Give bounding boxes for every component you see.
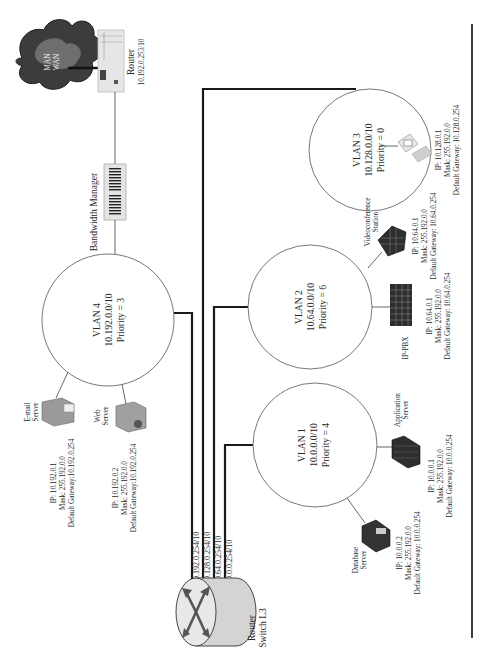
svg-text:Web: Web: [94, 409, 102, 422]
vlan4-email-link: [56, 372, 68, 398]
svg-text:Server: Server: [102, 406, 110, 425]
interface-label-vlan4: 10.192.0.254/10: [192, 532, 201, 584]
svg-text:IP: 10.64.0.1: IP: 10.64.0.1: [426, 297, 434, 335]
svg-text:IP-PBX: IP-PBX: [402, 336, 410, 360]
videoconference-station-details: IP: 10.64.0.1 Mask: 255.192.0.0 Default …: [412, 192, 438, 279]
svg-text:10.64.0.254/10: 10.64.0.254/10: [214, 536, 223, 584]
svg-text:10.192.0.254/10: 10.192.0.254/10: [192, 532, 201, 584]
svg-text:IP: 10.64.0.1: IP: 10.64.0.1: [412, 217, 420, 255]
svg-text:Database: Database: [352, 547, 360, 573]
videoconference-station-icon: [378, 226, 406, 256]
database-server-details: IP: 10.0.0.2 Mask: 255.192.0.0 Default G…: [396, 511, 422, 595]
vlan3-workstation-details: IP: 10.128.0.1 Mask: 255.192.0.0 Default…: [435, 104, 461, 195]
svg-text:10.0.0.254/10: 10.0.0.254/10: [225, 540, 234, 584]
ip-pbx-details: IP: 10.64.0.1 Mask: 255.192.0.0 Default …: [426, 272, 452, 359]
trunk-vlan4: [174, 313, 192, 600]
edge-router-label: Router 10.192.0.253/10: [125, 38, 146, 85]
bandwidth-manager-label: Bandwidth Manager: [88, 172, 99, 251]
svg-text:Default Gateway:10.192.0.254: Default Gateway:10.192.0.254: [68, 438, 76, 527]
svg-text:Mask: 255.192.0.0: Mask: 255.192.0.0: [421, 209, 429, 263]
svg-text:IP: 10.0.0.1: IP: 10.0.0.1: [428, 459, 436, 493]
svg-text:WAN: WAN: [53, 53, 61, 70]
database-server-label: Database Server: [352, 547, 368, 573]
svg-text:10.192.0.253/10: 10.192.0.253/10: [138, 38, 146, 85]
svg-text:Server: Server: [360, 550, 368, 569]
vlan1-db-link: [347, 498, 365, 523]
edge-router-icon: [98, 30, 124, 92]
svg-text:Mask: 255.192.0.0: Mask: 255.192.0.0: [121, 461, 129, 515]
svg-text:IP: 10.0.0.2: IP: 10.0.0.2: [396, 536, 404, 570]
core-router-icon: [176, 578, 256, 646]
svg-text:Application: Application: [394, 393, 402, 427]
svg-text:Router: Router: [246, 614, 257, 641]
svg-text:IP: 10.128.0.1: IP: 10.128.0.1: [435, 129, 443, 170]
svg-text:Videoconference: Videoconference: [364, 198, 372, 247]
email-server-details: IP: 10.192.0.1 Mask: 255.192.0.0 Default…: [50, 438, 76, 527]
email-server-label: E-mail Server: [24, 402, 40, 422]
svg-text:10.192.0.0/10: 10.192.0.0/10: [103, 293, 114, 346]
svg-text:Mask: 255.192.0.0: Mask: 255.192.0.0: [405, 526, 413, 580]
application-server-details: IP: 10.0.0.1 Mask: 255.192.0.0 Default G…: [428, 434, 454, 518]
network-diagram: MAN WAN Router 10.192.0.253/10 Bandwidth: [0, 0, 479, 656]
svg-text:IP: 10.192.0.2: IP: 10.192.0.2: [112, 467, 120, 508]
web-server-details: IP: 10.192.0.2 Mask: 255.192.0.0 Default…: [112, 443, 138, 532]
application-server-icon: [392, 436, 420, 468]
svg-text:Mask: 255.192.0.0: Mask: 255.192.0.0: [437, 449, 445, 503]
svg-text:VLAN 4: VLAN 4: [91, 303, 102, 337]
interface-label-vlan3: 10.128.0.254/10: [203, 532, 212, 584]
svg-text:Default Gateway: 10.64.0.254: Default Gateway: 10.64.0.254: [444, 272, 452, 359]
svg-text:Station: Station: [372, 211, 380, 232]
svg-text:IP: 10.192.0.1: IP: 10.192.0.1: [50, 462, 58, 503]
interface-label-vlan1: 10.0.0.254/10: [225, 540, 234, 584]
vlan1-label: VLAN 1 10.0.0.0/10 Priority = 4: [296, 423, 331, 468]
svg-text:Priority = 3: Priority = 3: [115, 298, 126, 343]
web-server-icon: [116, 402, 146, 432]
svg-text:VLAN 3: VLAN 3: [351, 133, 362, 167]
wan-cloud-label: MAN WAN: [44, 53, 61, 71]
svg-text:Mask: 255.192.0.0: Mask: 255.192.0.0: [59, 456, 67, 510]
svg-text:Default Gateway:10.192.0.254: Default Gateway:10.192.0.254: [130, 443, 138, 532]
ip-pbx-label: IP-PBX: [402, 336, 410, 360]
svg-text:VLAN 2: VLAN 2: [293, 290, 304, 324]
application-server-label: Application Server: [394, 393, 410, 427]
email-server-icon: [42, 398, 74, 426]
svg-text:10.128.0.254/10: 10.128.0.254/10: [203, 532, 212, 584]
svg-text:Mask: 255.192.0.0: Mask: 255.192.0.0: [444, 123, 452, 177]
svg-text:Default Gateway: 10.0.0.254: Default Gateway: 10.0.0.254: [446, 434, 454, 518]
svg-text:Server: Server: [32, 402, 40, 421]
interface-label-vlan2: 10.64.0.254/10: [214, 536, 223, 584]
svg-text:10.128.0.0/10: 10.128.0.0/10: [363, 123, 374, 176]
svg-text:Switch L3: Switch L3: [257, 608, 268, 648]
svg-text:Mask: 255.192.0.0: Mask: 255.192.0.0: [435, 289, 443, 343]
svg-text:VLAN 1: VLAN 1: [296, 428, 307, 462]
svg-text:Server: Server: [402, 400, 410, 419]
svg-text:10.0.0.0/10: 10.0.0.0/10: [308, 423, 319, 467]
vlan4-web-link: [122, 384, 126, 404]
svg-text:Default Gateway: 10.0.0.254: Default Gateway: 10.0.0.254: [414, 511, 422, 595]
svg-text:Default Gateway: 10.64.0.254: Default Gateway: 10.64.0.254: [430, 192, 438, 279]
svg-text:Priority = 4: Priority = 4: [320, 423, 331, 468]
svg-text:E-mail: E-mail: [24, 402, 32, 422]
ip-pbx-icon: [390, 284, 412, 326]
svg-text:Router: Router: [125, 48, 136, 75]
web-server-label: Web Server: [94, 406, 110, 425]
svg-text:Default Gateway: 10.128.0.254: Default Gateway: 10.128.0.254: [453, 104, 461, 195]
svg-text:Bandwidth Manager: Bandwidth Manager: [88, 172, 99, 251]
svg-text:Priority = 0: Priority = 0: [375, 128, 386, 173]
database-server-icon: [362, 520, 390, 552]
svg-text:10.64.0.0/10: 10.64.0.0/10: [305, 283, 316, 331]
vlan2-video-link: [368, 252, 382, 268]
svg-text:MAN: MAN: [44, 53, 52, 71]
svg-text:Priority = 6: Priority = 6: [317, 285, 328, 330]
bandwidth-manager-icon: [104, 164, 126, 220]
